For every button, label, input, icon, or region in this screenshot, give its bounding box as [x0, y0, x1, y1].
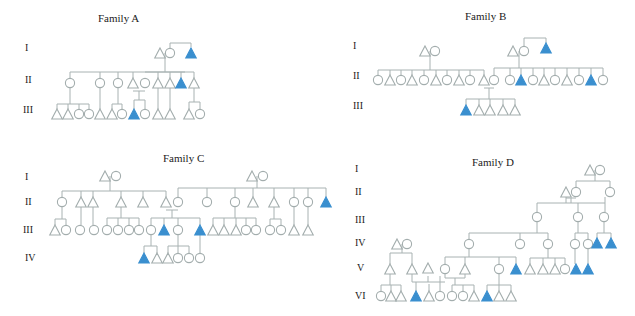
female-icon — [95, 78, 104, 87]
female-icon — [442, 75, 451, 84]
female-icon — [574, 75, 583, 84]
male-icon — [184, 109, 195, 119]
female-icon — [419, 75, 428, 84]
female-icon — [402, 239, 411, 248]
female-icon — [550, 75, 559, 84]
female-icon — [61, 225, 70, 234]
female-icon — [515, 239, 524, 248]
male-icon — [153, 78, 164, 88]
male-icon — [392, 239, 403, 249]
female-icon — [258, 171, 267, 180]
female-icon — [140, 109, 149, 118]
male-icon — [100, 171, 111, 181]
affected-male-icon — [511, 264, 522, 274]
female-icon — [494, 264, 503, 273]
affected-male-icon — [461, 105, 472, 115]
female-icon — [195, 253, 204, 262]
family-a-pedigree — [52, 43, 205, 119]
female-icon — [464, 239, 473, 248]
female-icon — [435, 291, 444, 300]
female-icon — [598, 75, 607, 84]
male-icon — [208, 225, 219, 235]
male-icon — [76, 197, 87, 207]
female-icon — [134, 225, 143, 234]
family-d-pedigree — [376, 165, 616, 301]
male-icon — [562, 75, 573, 85]
female-icon — [560, 264, 569, 273]
affected-male-icon — [606, 238, 617, 248]
female-icon — [605, 187, 614, 196]
female-icon — [173, 197, 182, 206]
female-icon — [57, 197, 66, 206]
female-icon — [124, 225, 133, 234]
female-icon — [519, 46, 528, 55]
affected-male-icon — [186, 48, 197, 58]
male-icon — [161, 197, 172, 207]
female-icon — [465, 75, 474, 84]
female-icon — [65, 78, 74, 87]
female-icon — [111, 171, 120, 180]
male-icon — [289, 225, 300, 235]
female-icon — [376, 291, 385, 300]
male-icon — [539, 75, 550, 85]
male-icon — [424, 291, 435, 301]
female-icon — [289, 197, 298, 206]
female-icon — [173, 225, 182, 234]
male-icon — [510, 105, 521, 115]
male-icon — [385, 75, 396, 85]
male-icon — [107, 109, 118, 119]
male-icon — [420, 46, 431, 56]
female-icon — [440, 264, 449, 273]
male-icon — [396, 291, 407, 301]
male-icon — [219, 225, 230, 235]
male-icon — [152, 253, 163, 263]
affected-male-icon — [159, 225, 170, 235]
female-icon — [303, 197, 312, 206]
male-icon — [189, 78, 200, 88]
male-icon — [454, 75, 465, 85]
affected-male-icon — [583, 264, 594, 274]
affected-male-icon — [482, 291, 493, 301]
female-icon — [113, 225, 122, 234]
male-icon — [407, 75, 418, 85]
affected-male-icon — [571, 264, 582, 274]
female-icon — [583, 239, 592, 248]
female-icon — [74, 109, 83, 118]
male-icon — [128, 78, 139, 88]
male-icon — [269, 197, 280, 207]
male-icon — [231, 225, 242, 235]
female-icon — [573, 212, 582, 221]
male-icon — [407, 264, 418, 274]
male-icon — [165, 78, 176, 88]
female-icon — [265, 225, 274, 234]
family-c-pedigree — [50, 171, 332, 263]
male-icon — [469, 291, 480, 301]
female-icon — [458, 291, 467, 300]
affected-male-icon — [321, 197, 332, 207]
affected-male-icon — [176, 78, 187, 88]
female-icon — [489, 75, 498, 84]
female-icon — [117, 109, 126, 118]
affected-male-icon — [586, 75, 597, 85]
female-icon — [146, 225, 155, 234]
male-icon — [155, 48, 166, 58]
pedigree-chart — [0, 0, 635, 316]
male-icon — [247, 171, 258, 181]
male-icon — [165, 109, 176, 119]
male-icon — [423, 263, 434, 273]
affected-male-icon — [592, 238, 603, 248]
female-icon — [113, 78, 122, 87]
male-icon — [561, 187, 572, 197]
male-icon — [506, 291, 517, 301]
female-icon — [595, 165, 604, 174]
male-icon — [474, 105, 485, 115]
male-icon — [303, 225, 314, 235]
female-icon — [241, 225, 250, 234]
female-icon — [430, 46, 439, 55]
affected-male-icon — [139, 253, 150, 263]
affected-male-icon — [411, 291, 422, 301]
female-icon — [251, 225, 260, 234]
female-icon — [165, 48, 174, 57]
male-icon — [479, 75, 490, 85]
female-icon — [184, 253, 193, 262]
